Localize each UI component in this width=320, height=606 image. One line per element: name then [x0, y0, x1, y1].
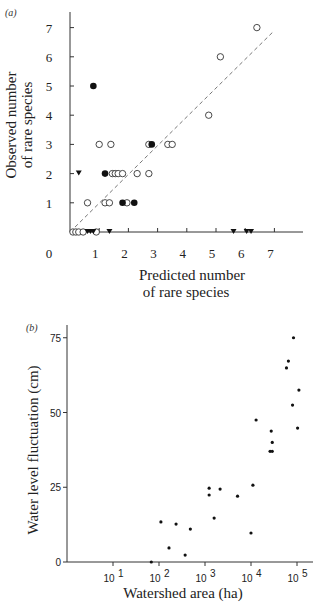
- data-point: [236, 495, 239, 498]
- panel-b-x-tick-exponent: 1: [118, 568, 124, 579]
- panel-b-y-tick-label: 75: [50, 333, 62, 344]
- panel-b-y-tick-label: 0: [55, 557, 61, 568]
- panel-a-x-tick-label: 5: [209, 246, 216, 261]
- panel-b-x-tick-label: 10: [149, 573, 161, 584]
- panel-b-scatter: (b) 0255075 101102103104105 Watershed ar…: [25, 322, 313, 602]
- panel-a-origin-label: 0: [46, 246, 53, 261]
- panel-a-y-tick-label: 2: [46, 167, 53, 182]
- open-circle-point: [206, 112, 212, 118]
- panel-b-points: [150, 336, 301, 563]
- panel-b-label: (b): [26, 322, 38, 334]
- panel-b-x-tick-label: 10: [287, 573, 299, 584]
- data-point: [296, 426, 299, 429]
- data-point: [291, 403, 294, 406]
- open-circle-point: [84, 200, 90, 206]
- panel-b-x-tick-label: 10: [241, 573, 253, 584]
- panel-a-x-tick-label: 4: [180, 246, 187, 261]
- panel-a-x-title-line1: Predicted number: [139, 267, 245, 283]
- panel-a-y-tick-label: 1: [46, 196, 53, 211]
- panel-a-y-tick-label: 3: [46, 137, 53, 152]
- panel-a-points: [70, 24, 260, 235]
- open-circle-point: [217, 54, 223, 60]
- filled-circle-point: [119, 200, 126, 207]
- data-point: [174, 522, 177, 525]
- data-point: [287, 359, 290, 362]
- panel-b-y-title: Water level fluctuation (cm): [25, 365, 42, 534]
- filled-circle-point: [148, 141, 155, 148]
- data-point: [219, 487, 222, 490]
- panel-a-x-tick-label: 1: [92, 246, 99, 261]
- data-point: [249, 531, 252, 534]
- panel-a-x-tick-label: 3: [150, 246, 157, 261]
- panel-a-x-tick-label: 7: [267, 246, 274, 261]
- panel-b-x-tick-exponent: 3: [210, 568, 216, 579]
- panel-a-label: (a): [5, 7, 17, 19]
- open-circle-point: [254, 24, 260, 30]
- data-point: [208, 487, 211, 490]
- panel-b-x-title: Watershed area (ha): [123, 585, 243, 602]
- panel-a-x-title-line2: of rare species: [143, 284, 230, 300]
- data-point: [271, 450, 274, 453]
- panel-b-x-tick-exponent: 5: [302, 568, 308, 579]
- data-point: [184, 554, 187, 557]
- open-circle-point: [169, 141, 175, 147]
- panel-b-y-tick-label: 50: [50, 408, 62, 419]
- open-circle-point: [96, 141, 102, 147]
- panel-a-y-tick-label: 5: [46, 79, 53, 94]
- panel-b-x-tick-label: 10: [103, 573, 115, 584]
- panel-a-y-title-line1: Observed number: [3, 71, 19, 178]
- panel-a-x-tick-label: 2: [121, 246, 128, 261]
- filled-circle-point: [131, 200, 138, 207]
- filled-circle-point: [102, 170, 109, 177]
- panel-b-x-ticks: 101102103104105: [103, 562, 308, 584]
- triangle-point: [76, 171, 82, 176]
- panel-b-y-tick-label: 25: [50, 482, 62, 493]
- panel-b-x-tick-label: 10: [195, 573, 207, 584]
- panel-a-y-tick-label: 6: [46, 50, 53, 65]
- data-point: [208, 493, 211, 496]
- data-point: [150, 560, 153, 563]
- data-point: [251, 484, 254, 487]
- panel-b-x-tick-exponent: 2: [164, 568, 170, 579]
- data-point: [285, 366, 288, 369]
- panel-b-y-ticks: 0255075: [50, 333, 67, 568]
- data-point: [159, 520, 162, 523]
- data-point: [167, 546, 170, 549]
- open-circle-point: [106, 200, 112, 206]
- panel-a-scatter: (a) 1234567 1234567 0 Predicted number o…: [3, 7, 303, 300]
- panel-a-y-title-line2: of rare species: [19, 82, 35, 169]
- panel-a-y-tick-label: 7: [46, 21, 53, 36]
- data-point: [270, 429, 273, 432]
- open-circle-point: [108, 141, 114, 147]
- panel-b-x-tick-exponent: 4: [256, 568, 262, 579]
- open-circle-point: [119, 170, 125, 176]
- panel-a-x-tick-label: 6: [238, 246, 245, 261]
- open-circle-point: [134, 170, 140, 176]
- data-point: [189, 528, 192, 531]
- figure: (a) 1234567 1234567 0 Predicted number o…: [0, 0, 320, 606]
- data-point: [292, 336, 295, 339]
- open-circle-point: [146, 170, 152, 176]
- filled-circle-point: [90, 83, 97, 90]
- panel-a-y-tick-label: 4: [46, 108, 53, 123]
- panel-a-reference-line: [70, 31, 274, 232]
- data-point: [213, 516, 216, 519]
- data-point: [297, 388, 300, 391]
- data-point: [271, 441, 274, 444]
- data-point: [254, 418, 257, 421]
